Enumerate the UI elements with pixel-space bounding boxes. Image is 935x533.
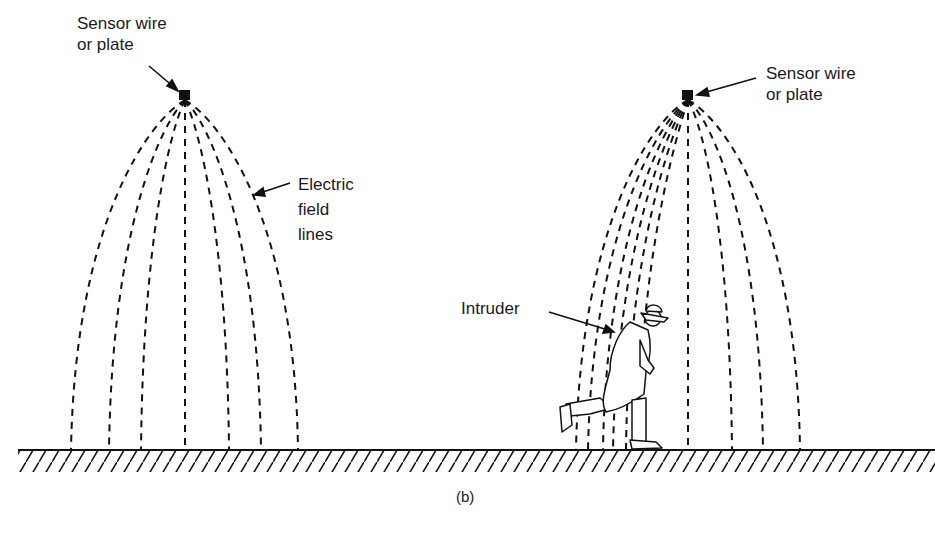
right-sensor-label-line-2: or plate xyxy=(766,84,856,105)
annotation-arrows xyxy=(149,66,756,333)
intruder-label-text: Intruder xyxy=(461,298,520,319)
left-sensor-label-line-1: Sensor wire xyxy=(77,13,167,34)
field-lines-label-line-1: Electric xyxy=(298,172,354,197)
field-lines-arrow xyxy=(254,183,290,196)
right-sensor-label: Sensor wire or plate xyxy=(766,63,856,105)
left-sensor-plate xyxy=(179,90,190,100)
field-lines-label-line-3: lines xyxy=(298,222,354,247)
right-sensor-arrow xyxy=(697,78,756,96)
left-sensor-label-line-2: or plate xyxy=(77,34,167,55)
intruder-arrow xyxy=(549,312,614,333)
right-sensor-label-line-1: Sensor wire xyxy=(766,63,856,84)
ground xyxy=(18,450,935,472)
left-sensor-arrow xyxy=(149,66,178,91)
figure-caption: (b) xyxy=(456,486,474,507)
left-field-lines xyxy=(71,100,298,450)
left-sensor-label: Sensor wire or plate xyxy=(77,13,167,55)
field-lines-label: Electric field lines xyxy=(298,172,354,247)
intruder-label: Intruder xyxy=(461,298,520,319)
field-lines-label-line-2: field xyxy=(298,197,354,222)
right-sensor-plate xyxy=(682,90,693,100)
